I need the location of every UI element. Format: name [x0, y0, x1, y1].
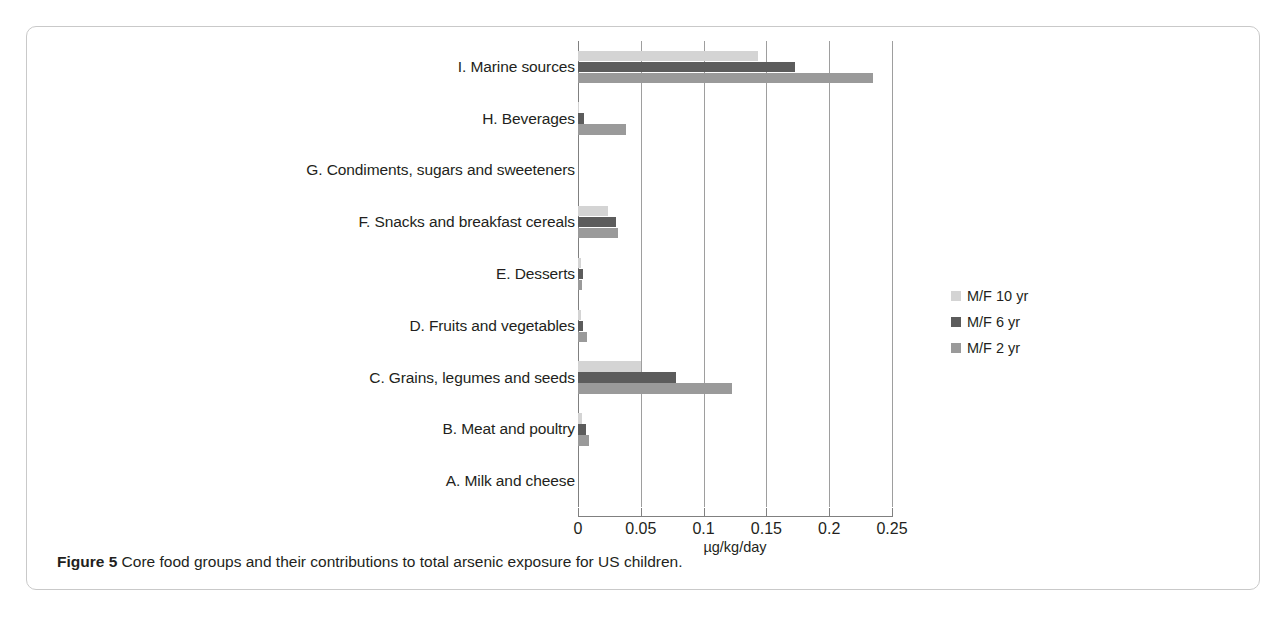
- x-axis-tick: [641, 508, 642, 517]
- figure-card: I. Marine sourcesH. BeveragesG. Condimen…: [26, 26, 1260, 590]
- x-axis-tick-label: 0.05: [625, 519, 656, 539]
- bar: [578, 73, 873, 84]
- bar-group: [578, 206, 892, 239]
- category-label: D. Fruits and vegetables: [35, 318, 575, 334]
- category-axis-labels: I. Marine sourcesH. BeveragesG. Condimen…: [27, 41, 575, 507]
- x-axis-tick: [829, 508, 830, 517]
- bar: [578, 361, 641, 372]
- bar: [578, 321, 583, 332]
- legend-swatch-icon: [951, 291, 961, 301]
- legend-label: M/F 2 yr: [967, 340, 1020, 356]
- chart-area: I. Marine sourcesH. BeveragesG. Condimen…: [27, 27, 1261, 527]
- figure-caption: Figure 5 Core food groups and their cont…: [57, 552, 1237, 572]
- category-label: G. Condiments, sugars and sweeteners: [35, 162, 575, 178]
- x-axis-tick: [704, 508, 705, 517]
- x-axis-line: [578, 516, 892, 517]
- category-label: B. Meat and poultry: [35, 421, 575, 437]
- bar: [578, 206, 608, 217]
- bar-group: [578, 154, 892, 187]
- legend-swatch-icon: [951, 343, 961, 353]
- bar: [578, 372, 676, 383]
- legend-swatch-icon: [951, 317, 961, 327]
- x-axis-tick-label: 0.2: [818, 519, 840, 539]
- plot-inner: [578, 41, 892, 507]
- legend-item: M/F 10 yr: [951, 283, 1131, 309]
- bar: [578, 310, 581, 321]
- category-label: I. Marine sources: [35, 59, 575, 75]
- bar: [578, 62, 795, 73]
- x-axis-tick-label: 0: [574, 519, 583, 539]
- x-axis-tick: [892, 508, 893, 517]
- bar-group: [578, 258, 892, 291]
- gridline: [892, 41, 893, 507]
- bar-group: [578, 51, 892, 84]
- bar: [578, 124, 626, 135]
- x-axis-tick-labels: 00.050.10.150.20.25: [578, 519, 892, 541]
- category-label: E. Desserts: [35, 266, 575, 282]
- figure-caption-text: Core food groups and their contributions…: [122, 553, 683, 570]
- bar: [578, 435, 589, 446]
- bar-group: [578, 102, 892, 135]
- category-label: H. Beverages: [35, 111, 575, 127]
- bar: [578, 51, 758, 62]
- x-axis-tick: [578, 508, 579, 517]
- x-axis-tick-label: 0.1: [692, 519, 714, 539]
- bar-group: [578, 465, 892, 498]
- legend-item: M/F 6 yr: [951, 309, 1131, 335]
- bar-group: [578, 361, 892, 394]
- bar: [578, 258, 581, 269]
- bar-group: [578, 413, 892, 446]
- bar-group: [578, 310, 892, 343]
- x-axis-tick-label: 0.15: [751, 519, 782, 539]
- bar: [578, 102, 579, 113]
- x-axis-tick-label: 0.25: [876, 519, 907, 539]
- legend-label: M/F 6 yr: [967, 314, 1020, 330]
- bar: [578, 280, 582, 291]
- bar: [578, 383, 732, 394]
- legend-item: M/F 2 yr: [951, 335, 1131, 361]
- x-axis-tick: [766, 508, 767, 517]
- figure-caption-label: Figure 5: [57, 553, 117, 570]
- chart-legend: M/F 10 yrM/F 6 yrM/F 2 yr: [951, 283, 1131, 361]
- bar: [578, 217, 616, 228]
- legend-label: M/F 10 yr: [967, 288, 1028, 304]
- bar: [578, 413, 582, 424]
- bar: [578, 424, 586, 435]
- bar: [578, 269, 583, 280]
- plot-region: [578, 41, 892, 507]
- category-label: C. Grains, legumes and seeds: [35, 370, 575, 386]
- bar: [578, 228, 618, 239]
- category-label: A. Milk and cheese: [35, 473, 575, 489]
- bar: [578, 332, 587, 343]
- bar: [578, 113, 584, 124]
- category-label: F. Snacks and breakfast cereals: [35, 214, 575, 230]
- x-axis: [578, 507, 892, 517]
